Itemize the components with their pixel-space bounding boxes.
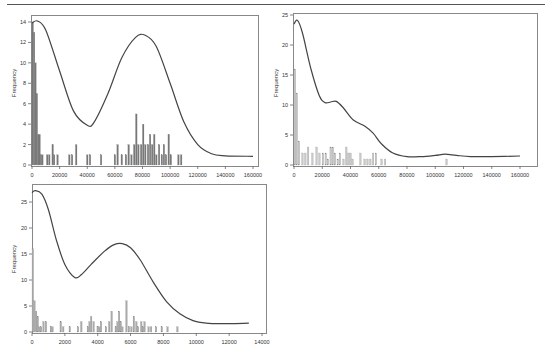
histogram-bar — [118, 311, 120, 332]
histogram-bar — [147, 145, 149, 165]
histogram-chart-2: 0510152025020000400006000080000100000120… — [270, 8, 545, 180]
histogram-bar — [35, 311, 37, 332]
histogram-bar — [337, 159, 339, 165]
histogram-bar — [294, 69, 296, 165]
x-tick-label: 20000 — [315, 172, 330, 178]
histogram-bar — [99, 327, 101, 332]
histogram-bar — [126, 301, 128, 332]
histogram-bar — [180, 155, 182, 165]
histogram-bar — [345, 147, 347, 165]
chart-2-ylabel: Frequency — [273, 63, 279, 103]
histogram-bar — [43, 322, 45, 332]
histogram-bar — [108, 322, 110, 332]
histogram-bar — [97, 327, 99, 332]
histogram-bar — [133, 145, 135, 165]
histogram-bar — [155, 327, 157, 332]
x-tick-label: 40000 — [343, 172, 358, 178]
histogram-bar — [52, 327, 54, 332]
y-tick-label: 4 — [23, 121, 26, 127]
histogram-bar — [137, 327, 139, 332]
histogram-bar — [350, 153, 352, 165]
x-tick-label: 14000 — [254, 339, 269, 345]
histogram-bar — [53, 155, 55, 165]
histogram-bar — [50, 327, 52, 332]
histogram-bar — [140, 145, 142, 165]
histogram-bar — [163, 145, 165, 165]
y-tick-label: 10 — [21, 277, 27, 283]
chart-2-svg: 0510152025020000400006000080000100000120… — [270, 8, 545, 180]
histogram-bar — [325, 153, 327, 165]
x-tick-label: 60000 — [107, 172, 122, 178]
histogram-bar — [327, 159, 329, 165]
histogram-bar — [40, 327, 42, 332]
chart-3-svg: 0510152025020004000600080001000012000140… — [0, 180, 275, 355]
y-tick-label: 15 — [21, 251, 27, 257]
histogram-bar — [296, 93, 298, 165]
plot-frame — [294, 14, 538, 167]
histogram-bar — [165, 155, 167, 165]
x-tick-label: 6000 — [124, 339, 136, 345]
histogram-bar — [117, 322, 119, 332]
histogram-bar — [298, 141, 300, 165]
histogram-bar — [136, 322, 138, 332]
histogram-bar — [360, 153, 362, 165]
y-tick-label: 10 — [20, 60, 26, 66]
x-tick-label: 0 — [30, 339, 33, 345]
histogram-bar — [131, 155, 133, 165]
histogram-bar — [87, 327, 89, 332]
histogram-bar — [131, 327, 133, 332]
histogram-bar — [142, 327, 144, 332]
histogram-bar — [156, 155, 158, 165]
y-tick-label: 0 — [285, 162, 288, 168]
histogram-bar — [375, 153, 377, 165]
histogram-bar — [364, 159, 366, 165]
chart-3-ylabel: Frequency — [11, 239, 17, 279]
histogram-bar — [369, 159, 371, 165]
histogram-bar — [446, 159, 448, 165]
histogram-bar — [322, 153, 324, 165]
histogram-bar — [161, 327, 163, 332]
histogram-bar — [144, 145, 146, 165]
histogram-bar — [135, 114, 137, 165]
histogram-bar — [343, 159, 345, 165]
histogram-bar — [158, 145, 160, 165]
x-tick-label: 140000 — [483, 172, 501, 178]
y-tick-label: 10 — [282, 102, 288, 108]
x-tick-label: 60000 — [371, 172, 386, 178]
histogram-bar — [80, 322, 82, 332]
histogram-bar — [144, 322, 146, 332]
histogram-bar — [332, 147, 334, 165]
y-tick-label: 5 — [285, 132, 288, 138]
x-tick-label: 0 — [292, 172, 295, 178]
x-tick-label: 4000 — [92, 339, 104, 345]
histogram-bar — [111, 311, 113, 332]
plot-frame — [33, 185, 267, 334]
x-tick-label: 8000 — [157, 339, 169, 345]
y-tick-label: 12 — [20, 39, 26, 45]
x-tick-label: 100000 — [426, 172, 444, 178]
histogram-bar — [39, 327, 41, 332]
histogram-bar — [93, 322, 95, 332]
histogram-bar — [114, 155, 116, 165]
histogram-bar — [372, 153, 374, 165]
histogram-bar — [89, 322, 91, 332]
histogram-bar — [71, 155, 73, 165]
y-tick-label: 0 — [23, 162, 26, 168]
histogram-bar — [316, 147, 318, 165]
histogram-bar — [381, 159, 383, 165]
x-tick-label: 160000 — [244, 172, 262, 178]
density-curve — [294, 20, 520, 157]
histogram-bar — [77, 327, 79, 332]
histogram-bar — [312, 153, 314, 165]
histogram-bar — [62, 327, 64, 332]
histogram-bar — [117, 145, 119, 165]
histogram-bar — [140, 322, 142, 332]
x-tick-label: 0 — [30, 172, 33, 178]
histogram-bar — [32, 249, 34, 332]
histogram-bar — [178, 155, 180, 165]
histogram-bar — [105, 327, 107, 332]
histogram-bar — [149, 134, 151, 165]
histogram-bar — [170, 155, 172, 165]
x-tick-label: 80000 — [399, 172, 414, 178]
y-tick-label: 25 — [21, 199, 27, 205]
